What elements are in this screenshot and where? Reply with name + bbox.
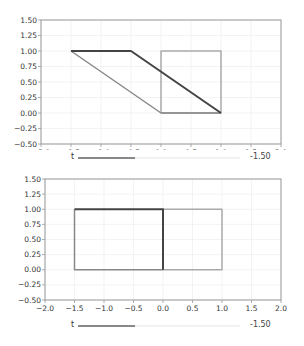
y-tick-label: 1.00 bbox=[24, 205, 41, 214]
x-tick-label: 1.0 bbox=[216, 304, 228, 313]
bottom-t-slider[interactable]: t -1.50 bbox=[0, 320, 304, 332]
x-tick-label: −0.5 bbox=[124, 304, 142, 313]
slider-track[interactable] bbox=[78, 325, 240, 327]
slider-label: t bbox=[71, 320, 74, 329]
y-tick-label: −0.25 bbox=[18, 280, 41, 289]
x-tick-label: 0.5 bbox=[187, 304, 199, 313]
y-tick-label: 0.25 bbox=[24, 250, 41, 259]
y-tick-label: 0.00 bbox=[24, 265, 41, 274]
y-tick-label: −0.50 bbox=[18, 296, 41, 305]
y-tick-label: 1.50 bbox=[24, 175, 41, 184]
bottom-chart-panel: −2.0−1.5−1.0−0.50.00.51.01.52.01.501.251… bbox=[0, 0, 304, 346]
x-tick-label: −1.5 bbox=[65, 304, 83, 313]
y-tick-label: 1.25 bbox=[24, 190, 41, 199]
x-tick-label: −2.0 bbox=[36, 304, 54, 313]
y-tick-label: 0.75 bbox=[24, 220, 41, 229]
slider-value: -1.50 bbox=[250, 320, 271, 329]
bottom-chart: −2.0−1.5−1.0−0.50.00.51.01.52.01.501.251… bbox=[0, 0, 304, 320]
x-tick-label: 2.0 bbox=[275, 304, 287, 313]
x-tick-label: 0.0 bbox=[157, 304, 169, 313]
slider-fill bbox=[78, 325, 135, 327]
y-tick-label: 0.50 bbox=[24, 235, 41, 244]
x-tick-label: −1.0 bbox=[95, 304, 113, 313]
x-tick-label: 1.5 bbox=[246, 304, 258, 313]
